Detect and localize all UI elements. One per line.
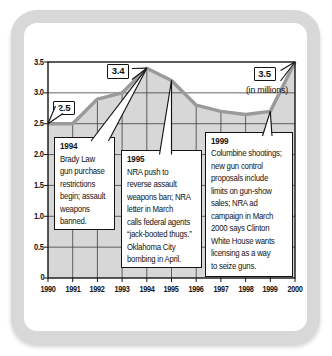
annotation-1994-content: 1994 Brady Law gun purchase restrictions…: [60, 140, 111, 228]
annotation-1995-text: NRA push to reverse assault weapons ban;…: [127, 166, 198, 266]
y-tick-label: 1.5: [34, 180, 44, 191]
x-tick-label: 1999: [261, 284, 279, 296]
annotation-1999-text: Columbine shootings; new gun control pro…: [211, 147, 289, 272]
y-tick-label: 0.5: [34, 242, 44, 253]
callout-value-3-5: 3.5: [254, 67, 276, 82]
annotation-1994-text: Brady Law gun purchase restrictions begi…: [60, 153, 111, 228]
x-tick-label: 1997: [212, 284, 230, 296]
x-tick-label: 1996: [187, 284, 205, 296]
annotation-1995-content: 1995 NRA push to reverse assault weapons…: [127, 153, 198, 266]
x-tick-label: 1990: [39, 284, 57, 296]
y-axis-labels: 3.53.02.52.01.51.00.50: [18, 57, 44, 284]
x-tick-label: 1991: [64, 284, 82, 296]
annotation-1999-year: 1999: [211, 135, 289, 148]
y-tick-label: 2.0: [34, 149, 44, 160]
y-tick-label: 2.5: [34, 118, 44, 129]
y-tick-label: 0: [40, 272, 44, 283]
x-tick-label: 1995: [163, 284, 181, 296]
x-tick-label: 1993: [113, 284, 131, 296]
x-tick-label: 2000: [286, 284, 304, 296]
y-tick-label: 3.5: [34, 57, 44, 68]
annotation-1999-content: 1999 Columbine shootings; new gun contro…: [211, 135, 289, 273]
unit-label: (in millions): [203, 84, 288, 95]
annotation-1999: 1999 Columbine shootings; new gun contro…: [205, 132, 293, 277]
annotation-1995: 1995 NRA push to reverse assault weapons…: [121, 150, 202, 268]
x-tick-label: 1998: [237, 284, 255, 296]
callout-value-2-5: 2.5: [53, 101, 75, 116]
annotation-1994-year: 1994: [60, 140, 111, 153]
annotation-1995-year: 1995: [127, 153, 198, 166]
x-tick-label: 1994: [138, 284, 156, 296]
x-axis-labels: 1990199119921993199419951996199719981999…: [38, 284, 305, 296]
callout-value-3-4: 3.4: [107, 64, 129, 79]
annotation-1994: 1994 Brady Law gun purchase restrictions…: [54, 137, 115, 230]
x-tick-label: 1992: [89, 284, 107, 296]
gun-sales-infographic: 3.53.02.52.01.51.00.50 19901991199219931…: [0, 0, 332, 356]
y-tick-label: 1.0: [34, 211, 44, 222]
y-tick-label: 3.0: [34, 87, 44, 98]
